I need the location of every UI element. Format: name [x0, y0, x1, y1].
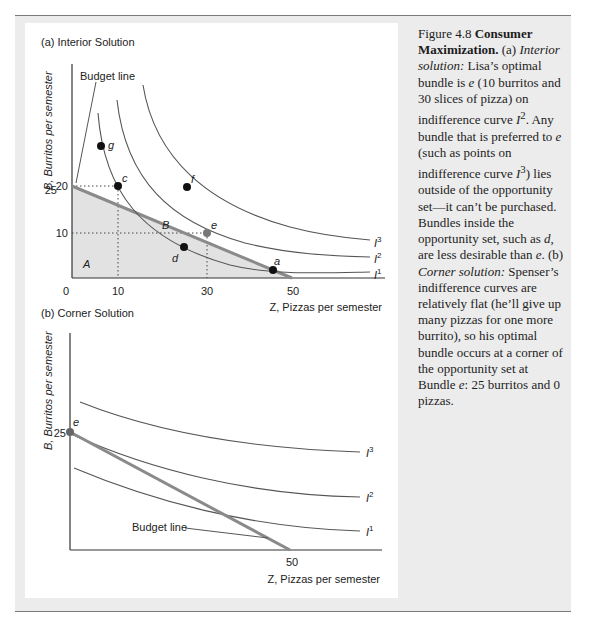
chart-a-ylabel-text: B, Burritos per semester: [42, 70, 54, 190]
tick-x30-a: 30: [201, 285, 213, 297]
label-i1-a: I1: [374, 267, 382, 281]
point-c-label: c: [122, 172, 128, 184]
point-g-label: g: [108, 139, 115, 151]
point-e: [203, 229, 211, 237]
tick-x0-a: 0: [63, 285, 69, 297]
chart-b: (b) Corner Solution B, Burritos per seme…: [41, 307, 382, 585]
point-c: [114, 182, 122, 190]
chart-a-title: (a) Interior Solution: [41, 36, 135, 48]
caption-part-b-title: Corner solution:: [418, 264, 505, 279]
caption-part-b-label: (b): [548, 247, 563, 262]
budget-label-b: Budget line: [132, 521, 187, 533]
point-f: [183, 183, 191, 191]
tick-x50-a: 50: [287, 285, 299, 297]
caption-var: e: [556, 129, 562, 144]
indifference-curve-i3-a: [143, 85, 370, 240]
indifference-curve-i2-b: [71, 434, 360, 497]
label-i1-b: I1: [366, 524, 374, 538]
label-i3-b: I3: [366, 445, 374, 459]
indifference-curve-i1-b: [74, 468, 360, 531]
figure-label: Figure 4.8: [418, 26, 471, 41]
tick-y20-a: 20: [56, 180, 68, 192]
point-a-label: a: [274, 255, 280, 267]
label-i2-a: I2: [374, 251, 382, 265]
chart-b-ylabel-text: B, Burritos per semester: [42, 330, 54, 450]
tick-x50-b: 50: [286, 556, 298, 568]
point-e-b: [66, 428, 74, 436]
chart-b-xlabel: Z, Pizzas per semester: [268, 573, 381, 585]
chart-a: (a) Interior Solution B, Burritos per se…: [41, 36, 385, 313]
indifference-curve-i3-b: [80, 402, 360, 452]
region-b-label: B: [162, 219, 169, 231]
caption-text: Spenser’s indifference curves are relati…: [418, 264, 563, 392]
chart-b-title: (b) Corner Solution: [41, 307, 134, 319]
chart-a-ylabel: B, Burritos per semester: [42, 70, 54, 190]
caption-text: (such as points on indifference curve: [418, 145, 513, 182]
region-a-label: A: [82, 258, 90, 270]
point-d: [180, 243, 188, 251]
point-e-label: e: [211, 219, 217, 231]
caption-text: .: [541, 247, 544, 262]
tick-x10-a: 10: [112, 285, 124, 297]
point-g: [97, 142, 105, 150]
label-i2-b: I2: [366, 490, 374, 504]
label-i3-a: I3: [374, 235, 382, 249]
budget-pointer-a: [76, 82, 96, 183]
figure-caption: Figure 4.8 Consumer Maximization. (a) In…: [418, 26, 568, 409]
chart-a-xlabel: Z, Pizzas per semester: [270, 301, 383, 313]
point-d-label: d: [172, 252, 179, 264]
point-e-b-label: e: [73, 416, 79, 428]
budget-label-a: Budget line: [80, 70, 135, 82]
tick-y25-b: 25: [54, 427, 66, 439]
caption-part-a-label: (a): [502, 42, 516, 57]
caption-var: e: [469, 75, 475, 90]
point-a: [269, 266, 277, 274]
chart-b-ylabel: B, Burritos per semester: [42, 330, 54, 450]
tick-y10-a: 10: [56, 227, 68, 239]
